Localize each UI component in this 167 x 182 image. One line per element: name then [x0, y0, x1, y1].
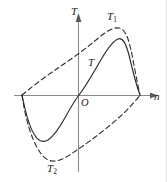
lower-envelope-curve-label: T2	[47, 163, 57, 176]
origin-label: O	[81, 98, 89, 109]
upper-envelope-curve	[22, 28, 140, 95]
upper-envelope-label-subscript: 1	[113, 15, 117, 24]
temperature-axis-label: T	[71, 6, 77, 17]
solid-temperature-curve	[22, 39, 140, 142]
upper-envelope-curve-label: T1	[107, 11, 117, 24]
solid-curve-label: T	[88, 57, 94, 68]
figure-canvas	[0, 0, 167, 182]
lower-envelope-label-subscript: 2	[53, 167, 57, 176]
temperature-curve-figure: T T1 T O n T2	[0, 0, 167, 182]
n-axis-label: n	[154, 91, 160, 102]
